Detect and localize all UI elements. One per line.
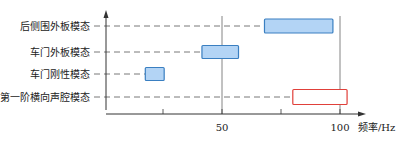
category-label: 车门外板模态 xyxy=(30,46,90,58)
category-label: 后侧围外板模态 xyxy=(20,20,90,32)
category-label: 车门刚性模态 xyxy=(30,68,90,80)
range-bar xyxy=(293,90,347,105)
range-bar xyxy=(145,68,164,81)
category-label: 第一阶横向声腔模态 xyxy=(0,91,90,103)
x-axis-title: 频率/Hz xyxy=(358,121,395,133)
range-bar xyxy=(264,19,332,33)
range-bar xyxy=(202,46,239,59)
x-tick-label: 50 xyxy=(216,122,229,133)
x-tick-label: 100 xyxy=(330,122,349,133)
frequency-range-chart: 50100 后侧围外板模态车门外板模态车门刚性模态第一阶横向声腔模态 频率/Hz xyxy=(0,0,404,141)
x-axis-arrow xyxy=(358,112,366,117)
y-axis-arrow xyxy=(104,10,109,18)
